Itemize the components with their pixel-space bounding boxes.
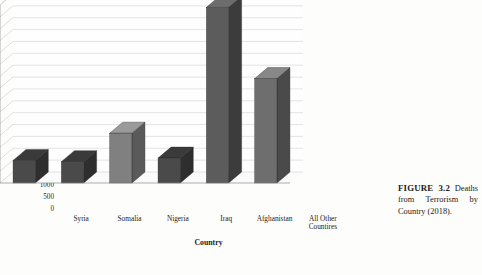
bar-nigeria [110,122,145,183]
x-axis-title: Country [57,238,360,247]
x-tick-label: Somalia [105,215,153,223]
bar-afghanistan [206,0,241,183]
x-tick-label: Iraq [202,215,250,223]
x-tick-label: Nigeria [154,215,202,223]
figure-number: FIGURE 3.2 [398,183,450,193]
figure-chart-area: Deaths from Terrorism by Country (2018) … [0,0,392,275]
x-tick-label: Afghanistan [250,215,298,223]
bar-all-other-countires [255,68,290,183]
x-tick-label: All Other Countires [299,215,347,232]
figure-caption: FIGURE 3.2 Deaths from Terrorism by Coun… [398,183,478,217]
x-tick-label: Syria [57,215,105,223]
chart-graphic [0,0,335,208]
